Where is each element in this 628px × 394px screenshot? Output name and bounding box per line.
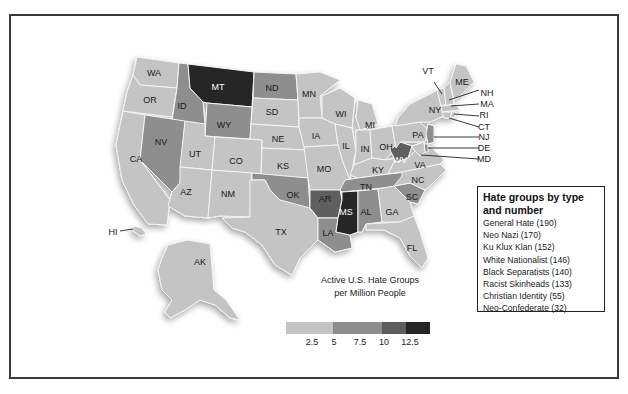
label-LA: LA (322, 228, 333, 238)
scale-bin-darkest (406, 322, 430, 334)
label-NC: NC (412, 175, 425, 185)
label-CT: CT (478, 122, 490, 132)
label-VA: VA (414, 160, 425, 170)
label-UT: UT (189, 149, 201, 159)
label-HI: HI (109, 227, 118, 237)
label-OK: OK (286, 190, 299, 200)
label-WV: WV (393, 155, 408, 165)
scale-bin-medium (333, 322, 382, 334)
label-FL: FL (407, 243, 418, 253)
tick-10: 10 (379, 337, 389, 347)
label-MN: MN (302, 89, 316, 99)
label-CA: CA (130, 154, 143, 164)
legend-item: Black Separatists (140) (483, 266, 599, 278)
legend-title-line1: Hate groups by type (483, 191, 599, 204)
label-MD: MD (477, 154, 491, 164)
label-TN: TN (360, 182, 372, 192)
tick-5: 5 (331, 337, 336, 347)
label-KY: KY (372, 165, 384, 175)
label-WY: WY (217, 120, 232, 130)
legend-item: White Nationalist (146) (483, 254, 599, 266)
label-MT: MT (212, 82, 225, 92)
label-IN: IN (361, 144, 370, 154)
label-WI: WI (336, 109, 347, 119)
label-DE: DE (478, 143, 491, 153)
label-MI: MI (365, 120, 375, 130)
label-ND: ND (266, 83, 279, 93)
label-KS: KS (277, 161, 289, 171)
label-NV: NV (155, 137, 168, 147)
state-HI[interactable] (132, 226, 146, 236)
label-IL: IL (342, 141, 350, 151)
legend-title-line2: and number (483, 204, 599, 217)
state-NJ[interactable] (426, 124, 434, 144)
label-OR: OR (143, 95, 157, 105)
legend-item: Ku Klux Klan (152) (483, 241, 599, 253)
label-CO: CO (229, 156, 243, 166)
label-MS: MS (339, 207, 353, 217)
label-SC: SC (406, 192, 419, 202)
label-IA: IA (312, 131, 321, 141)
label-MO: MO (317, 164, 332, 174)
label-NM: NM (221, 189, 235, 199)
label-ID: ID (178, 101, 188, 111)
scale-bin-dark (382, 322, 406, 334)
label-AZ: AZ (180, 187, 192, 197)
label-NE: NE (272, 134, 285, 144)
label-PA: PA (412, 130, 423, 140)
legend-item: Neo Nazi (170) (483, 229, 599, 241)
label-NH: NH (481, 88, 494, 98)
label-SD: SD (266, 107, 279, 117)
label-AR: AR (319, 194, 332, 204)
tick-2.5: 2.5 (306, 337, 319, 347)
label-ME: ME (455, 77, 469, 87)
label-VT: VT (422, 66, 434, 76)
scale-bin-light (286, 322, 333, 334)
hate-groups-legend: Hate groups by type and number General H… (477, 186, 605, 312)
legend-item: Racist Skinheads (133) (483, 278, 599, 290)
label-AK: AK (194, 257, 206, 267)
label-WA: WA (147, 68, 161, 78)
state-FL[interactable] (366, 216, 428, 268)
color-scale (286, 322, 430, 334)
label-NY: NY (429, 105, 442, 115)
label-AL: AL (360, 207, 371, 217)
scale-title-line2: per Million People (305, 287, 435, 300)
legend-item: Christian Identity (55) (483, 290, 599, 302)
legend-item: General Hate (190) (483, 217, 599, 229)
state-AK[interactable] (158, 240, 240, 320)
scale-ticks: 2.5 5 7.5 10 12.5 (286, 337, 466, 349)
tick-7.5: 7.5 (354, 337, 367, 347)
label-MA: MA (480, 99, 494, 109)
label-GA: GA (385, 207, 398, 217)
label-OH: OH (379, 142, 393, 152)
scale-title-line1: Active U.S. Hate Groups (305, 274, 435, 287)
label-TX: TX (275, 227, 287, 237)
label-RI: RI (480, 110, 489, 120)
label-NJ: NJ (479, 132, 490, 142)
tick-12.5: 12.5 (401, 337, 419, 347)
scale-title: Active U.S. Hate Groups per Million Peop… (305, 274, 435, 300)
legend-item: Neo-Confederate (32) (483, 302, 599, 314)
